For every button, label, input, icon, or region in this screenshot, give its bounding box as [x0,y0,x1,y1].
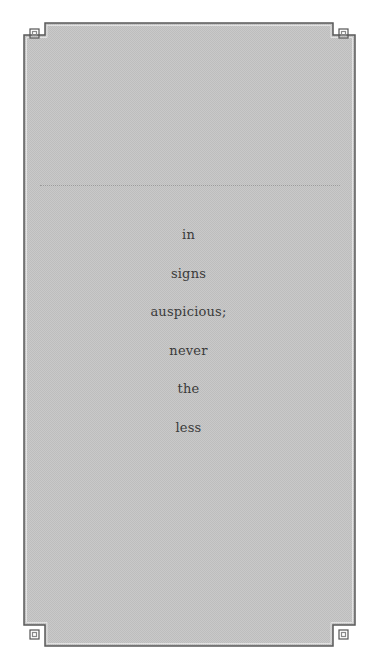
verse-line: never [0,340,377,379]
verse-block: in signs auspicious; never the less [0,224,377,455]
verse-line: signs [0,263,377,302]
verse-line: the [0,378,377,417]
verse-line: less [0,417,377,456]
verse-line: auspicious; [0,301,377,340]
verse-line: in [0,224,377,263]
dotted-divider [40,185,340,186]
